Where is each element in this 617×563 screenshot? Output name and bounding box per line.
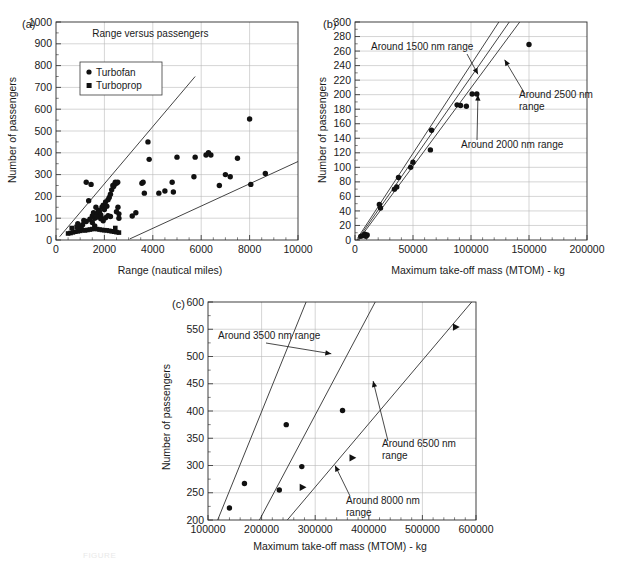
y-tick-label: 200 — [333, 88, 351, 100]
data-point — [208, 152, 213, 157]
y-tick-label: 700 — [34, 81, 52, 93]
y-tick-label: 600 — [186, 296, 204, 308]
data-point — [410, 160, 415, 165]
data-point — [263, 171, 268, 176]
y-tick-label: 350 — [186, 432, 204, 444]
data-point — [429, 128, 434, 133]
y-tick-label: 300 — [333, 16, 351, 28]
y-tick-label: 100 — [333, 161, 351, 173]
data-point — [171, 189, 176, 194]
panel-b: (b) 020406080100120140160180200220240260… — [313, 0, 617, 282]
data-point — [145, 139, 150, 144]
y-tick-label: 160 — [333, 117, 351, 129]
annotation-label: Around 1500 nm range — [371, 41, 474, 52]
data-point — [108, 214, 113, 219]
y-tick-label: 400 — [186, 405, 204, 417]
data-point — [235, 156, 240, 161]
data-point — [284, 422, 289, 427]
data-point — [299, 464, 304, 469]
data-point — [104, 204, 109, 209]
y-tick-label: 0 — [345, 234, 351, 246]
data-point — [191, 174, 196, 179]
data-point — [469, 91, 474, 96]
y-tick-label: 500 — [34, 125, 52, 137]
data-point — [84, 180, 89, 185]
data-point — [428, 147, 433, 152]
y-tick-label: 0 — [46, 234, 52, 246]
data-point — [248, 182, 253, 187]
panel-c-svg: (c) 200250300350400450500550600100000200… — [150, 282, 530, 563]
y-tick-label: 300 — [34, 168, 52, 180]
data-point — [169, 180, 174, 185]
y-tick-label: 800 — [34, 59, 52, 71]
y-tick-label: 400 — [34, 146, 52, 158]
x-tick-label: 4000 — [141, 243, 165, 255]
x-tick-label: 200000 — [569, 243, 604, 255]
data-point — [223, 172, 228, 177]
panel-b-xaxis-title: Maximum take-off mass (MTOM) - kg — [391, 264, 565, 276]
y-tick-label: 260 — [333, 45, 351, 57]
y-tick-label: 80 — [339, 175, 351, 187]
panel-c-xaxis-title: Maximum take-off mass (MTOM) - kg — [253, 540, 427, 552]
data-point — [458, 103, 463, 108]
y-tick-label: 600 — [34, 103, 52, 115]
annotation-label: Around 2000 nm range — [461, 139, 564, 150]
data-point — [396, 175, 401, 180]
panel-a-title: Range versus passengers — [92, 28, 208, 39]
panel-c-label: (c) — [172, 298, 185, 310]
y-tick-label: 450 — [186, 377, 204, 389]
data-point — [86, 198, 91, 203]
data-point — [116, 216, 121, 221]
data-point — [408, 165, 413, 170]
x-tick-label: 500000 — [405, 523, 440, 535]
y-tick-label: 20 — [339, 219, 351, 231]
y-tick-label: 1000 — [29, 16, 53, 28]
panel-b-svg: (b) 020406080100120140160180200220240260… — [313, 0, 617, 282]
data-point — [88, 182, 93, 187]
data-point — [100, 218, 105, 223]
x-tick-label: 6000 — [190, 243, 214, 255]
legend-square-icon — [87, 83, 92, 88]
data-point — [364, 232, 369, 237]
x-tick-label: 50000 — [398, 243, 427, 255]
data-point — [162, 188, 167, 193]
x-tick-label: 200000 — [244, 523, 279, 535]
data-point — [140, 180, 145, 185]
x-tick-label: 2000 — [93, 243, 117, 255]
data-point — [247, 116, 252, 121]
panel-a-yaxis-title: Number of passengers — [6, 77, 18, 183]
y-tick-label: 60 — [339, 190, 351, 202]
legend-label-turbofan: Turbofan — [96, 67, 136, 78]
y-tick-label: 550 — [186, 323, 204, 335]
panel-a-svg: (a) 010020030040050060070080090010000200… — [0, 0, 315, 282]
data-point — [464, 104, 469, 109]
data-point — [340, 408, 345, 413]
panel-a-gridlines — [56, 22, 298, 240]
data-point — [115, 180, 120, 185]
y-tick-label: 500 — [186, 350, 204, 362]
data-point — [378, 205, 383, 210]
legend-label-turboprop: Turboprop — [96, 80, 142, 91]
y-tick-label: 250 — [186, 486, 204, 498]
data-point — [277, 487, 282, 492]
y-tick-label: 220 — [333, 74, 351, 86]
x-tick-label: 8000 — [238, 243, 262, 255]
x-tick-label: 0 — [53, 243, 59, 255]
panel-c-yaxis-title: Number of passengers — [160, 364, 172, 470]
legend-circle-icon — [86, 69, 91, 74]
data-point — [174, 154, 179, 159]
data-point — [79, 225, 84, 230]
y-tick-label: 180 — [333, 103, 351, 115]
x-tick-label: 400000 — [351, 523, 386, 535]
y-tick-label: 900 — [34, 37, 52, 49]
x-tick-label: 600000 — [458, 523, 493, 535]
x-tick-label: 10000 — [283, 243, 312, 255]
panel-b-gridlines — [355, 22, 587, 240]
panel-c: (c) 200250300350400450500550600100000200… — [150, 282, 530, 563]
data-point — [69, 226, 74, 231]
data-point — [117, 230, 122, 235]
data-point — [217, 183, 222, 188]
data-point — [74, 225, 79, 230]
x-tick-label: 0 — [352, 243, 358, 255]
y-tick-label: 140 — [333, 132, 351, 144]
